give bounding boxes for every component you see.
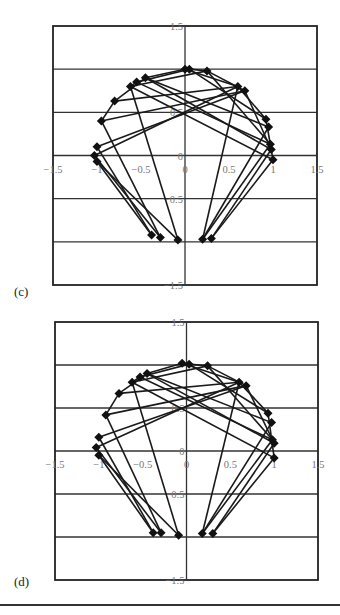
x-tick-label: 0.5 [224,459,237,470]
y-tick-label: −1.5 [165,575,184,586]
y-tick-label: −1.5 [164,280,183,291]
x-tick-label: 1.5 [311,459,324,470]
chart-panel-c: −1.5−1−0.500.511.51.50.50−0.5−1.5 (c) [0,0,340,300]
y-tick-label: 0 [179,446,184,457]
y-tick-label: −0.5 [165,489,184,500]
x-tick-label: 0 [184,459,189,470]
series-edge [106,393,119,415]
series-edge [208,366,273,440]
chart-panel-d: −1.5−1−0.500.511.51.50.50−0.5−1.5 (d) [0,300,340,600]
diamond-marker-icon [94,433,103,442]
diamond-marker-icon [240,86,249,95]
diamond-marker-icon [97,116,106,125]
series-edge [202,423,271,534]
y-tick-label: 1.5 [170,21,183,32]
series-edge [202,440,272,534]
x-tick-label: −1.5 [43,164,62,175]
diamond-marker-icon [264,123,273,132]
panel-label-d: (d) [14,574,29,590]
diamond-marker-icon [128,378,137,387]
x-tick-label: −0.5 [133,459,152,470]
x-tick-label: −1.5 [45,459,64,470]
series-edge [97,147,152,235]
series-edge [203,127,269,239]
series-edge [94,86,237,155]
diamond-marker-icon [101,410,110,419]
series-edge [207,71,270,144]
series-edge [145,78,271,150]
bottom-divider [0,604,340,606]
x-tick-label: −0.5 [131,164,150,175]
x-tick-label: 1.5 [310,164,323,175]
panel-label-c: (c) [14,284,28,300]
chart-d-svg: −1.5−1−0.500.511.51.50.50−0.5−1.5 [0,300,340,600]
series-edge [132,382,274,458]
series-edge [213,458,274,534]
y-tick-label: 1.5 [171,317,184,328]
series-edge [213,443,274,533]
chart-c-svg: −1.5−1−0.500.511.51.50.50−0.5−1.5 [0,0,340,300]
series-edge [202,382,239,533]
x-tick-label: 0 [182,164,187,175]
y-tick-label: 0 [178,151,183,162]
series-edge [137,82,271,144]
diamond-marker-icon [93,142,102,151]
x-tick-label: 0.5 [222,164,235,175]
x-tick-label: 1 [270,164,275,175]
